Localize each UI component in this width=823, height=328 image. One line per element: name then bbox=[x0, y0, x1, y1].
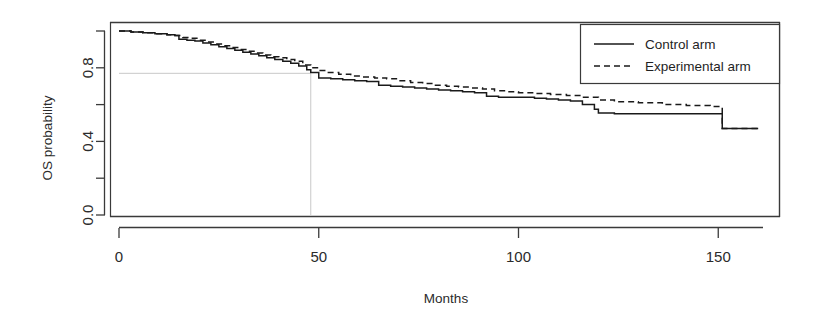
y-axis-tick-label: 0.0 bbox=[79, 205, 96, 226]
legend[interactable]: Control arm Experimental arm bbox=[581, 25, 780, 84]
legend-label-experimental-arm: Experimental arm bbox=[645, 59, 751, 74]
km-plot-svg: 0.00.40.8 OS probability 050100150 Month… bbox=[0, 0, 823, 328]
x-axis-tick-label: 100 bbox=[506, 248, 531, 265]
x-axis-tick-label: 150 bbox=[706, 248, 731, 265]
y-axis-title: OS probability bbox=[40, 95, 55, 180]
y-axis-tick-label: 0.8 bbox=[79, 57, 96, 78]
x-axis-title: Months bbox=[424, 291, 469, 306]
x-axis-tick-label: 0 bbox=[115, 248, 123, 265]
kaplan-meier-figure: 0.00.40.8 OS probability 050100150 Month… bbox=[0, 0, 823, 328]
x-axis-tick-label: 50 bbox=[310, 248, 327, 265]
legend-label-control-arm: Control arm bbox=[645, 37, 716, 52]
y-axis-tick-label: 0.4 bbox=[79, 131, 96, 152]
legend-box bbox=[581, 25, 780, 84]
